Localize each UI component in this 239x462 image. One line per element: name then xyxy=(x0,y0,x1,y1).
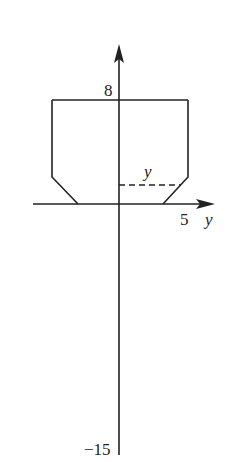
bottom-tick-label: −15 xyxy=(84,440,111,459)
right-tick-label: 5 xyxy=(180,210,189,229)
trough-outline-right xyxy=(163,100,188,204)
diagram: 8 y 5 y −15 xyxy=(0,0,239,462)
trough-outline xyxy=(52,100,78,204)
trough-cross-section-diagram: 8 y 5 y −15 xyxy=(0,0,239,462)
top-tick-label: 8 xyxy=(104,81,113,100)
dash-label: y xyxy=(142,162,152,181)
axis-label: y xyxy=(203,210,213,229)
